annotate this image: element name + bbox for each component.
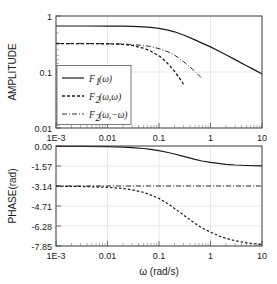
ytick-phase-628: -6.28 <box>31 222 52 232</box>
legend-label-f1: F <box>88 74 95 84</box>
xtick-amp-0.1: 0.1 <box>153 133 166 143</box>
ytick-phase-0: 0.00 <box>34 142 52 152</box>
axis-label-phase: PHASE(rad) <box>7 168 18 223</box>
xtick-amp-1: 1 <box>208 133 213 143</box>
ytick-phase-157: -1.57 <box>31 162 52 172</box>
xtick-amp-0.01: 0.01 <box>99 133 117 143</box>
legend-label-f1-args: (ω) <box>99 74 112 85</box>
axis-label-omega: ω (rad/s) <box>139 266 178 277</box>
legend-label-f2-minus: F <box>88 110 95 120</box>
xtick-phase-10: 10 <box>257 251 267 261</box>
ytick-amp-0.01: 0.01 <box>34 124 52 134</box>
ytick-amp-1: 1 <box>47 12 52 22</box>
xtick-amp-10: 10 <box>257 133 267 143</box>
legend-label-f2-minus-args: (ω,−ω) <box>99 110 128 121</box>
figure-root: F 1 (ω) F 2 (ω,ω) F 2 (ω,−ω) 1 <box>0 0 277 284</box>
ytick-phase-314: -3.14 <box>31 182 52 192</box>
legend-label-f2-plus-args: (ω,ω) <box>99 92 121 103</box>
xtick-phase-0.1: 0.1 <box>153 251 166 261</box>
ytick-phase-471: -4.71 <box>31 202 52 212</box>
xtick-phase-1: 1 <box>208 251 213 261</box>
chart-svg: F 1 (ω) F 2 (ω,ω) F 2 (ω,−ω) 1 <box>0 0 277 284</box>
ytick-phase-785: -7.85 <box>31 242 52 252</box>
legend-label-f2-plus: F <box>88 92 95 102</box>
ytick-amp-0.1: 0.1 <box>39 68 52 78</box>
xtick-phase-0.01: 0.01 <box>99 251 117 261</box>
axis-label-amplitude: AMPLITUDE <box>7 43 18 101</box>
xtick-phase-1e-3: 1E-3 <box>46 251 65 261</box>
legend: F 1 (ω) F 2 (ω,ω) F 2 (ω,−ω) <box>57 66 131 125</box>
